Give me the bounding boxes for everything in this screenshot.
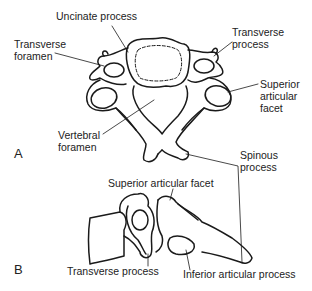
right-transverse-foramen	[194, 59, 214, 73]
lateral-body	[89, 212, 127, 264]
spinous-process-a	[158, 150, 162, 154]
panel-letter-a: A	[14, 146, 23, 161]
right-transverse-process	[188, 50, 223, 82]
right-articular-pillar	[182, 78, 231, 130]
label-inferior-articular-process: Inferior articular process	[183, 268, 296, 280]
label-transverse-process-b: Transverse process	[67, 265, 159, 277]
leader-superior-articular-facet-a	[228, 84, 258, 92]
left-lamina	[116, 108, 158, 162]
label-transverse-process-a: Transverse process	[232, 26, 284, 50]
cervical-vertebra-diagram: A B Uncinate process Transverse foramen …	[0, 0, 312, 291]
panel-letter-b: B	[14, 262, 23, 277]
right-lamina	[162, 108, 204, 160]
left-transverse-foramen	[104, 63, 124, 77]
lateral-view-drawing	[89, 194, 253, 264]
superior-view-drawing	[87, 38, 233, 162]
label-superior-articular-facet-b: Superior articular facet	[108, 177, 214, 189]
vertebral-foramen	[133, 86, 188, 134]
leader-vertebral-foramen	[103, 100, 154, 134]
lateral-facet-oval	[132, 210, 148, 230]
label-vertebral-foramen: Vertebral foramen	[58, 129, 100, 153]
lateral-inferior-facet	[168, 236, 194, 255]
label-transverse-foramen: Transverse foramen	[14, 38, 66, 62]
leader-uncinate	[112, 26, 128, 52]
label-uncinate-process: Uncinate process	[56, 10, 137, 22]
label-spinous-process: Spinous process	[240, 149, 278, 173]
label-superior-articular-facet-a: Superior articular facet	[260, 78, 300, 114]
left-superior-articular-facet	[89, 85, 119, 111]
